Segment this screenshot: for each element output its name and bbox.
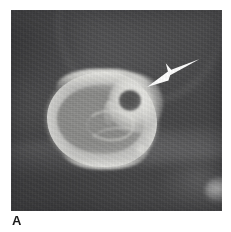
cortical-notch [132, 142, 150, 157]
panel-label: A [12, 213, 21, 228]
figure-panel: A [0, 0, 231, 232]
carpal-bone [47, 72, 157, 166]
axial-ct-image [11, 10, 222, 211]
